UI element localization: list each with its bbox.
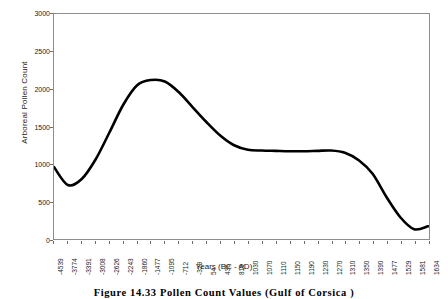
x-axis-tick-mark xyxy=(304,241,305,244)
x-axis-tick-mark xyxy=(387,241,388,244)
y-axis-tick-label: 3000 xyxy=(34,10,50,17)
y-axis-tick-label: 2000 xyxy=(34,85,50,92)
figure-caption: Figure 14.33 Pollen Count Values (Gulf o… xyxy=(0,287,448,298)
x-axis-tick-mark xyxy=(415,241,416,244)
y-axis-tick-label: 500 xyxy=(38,199,50,206)
x-axis-tick-mark xyxy=(262,241,263,244)
x-axis-tick-mark xyxy=(220,241,221,244)
data-line-arboreal-pollen-count xyxy=(54,80,428,230)
pollen-count-figure: Arboreal Pollen Count 050010001500200025… xyxy=(0,0,448,299)
line-series-svg xyxy=(54,14,429,239)
x-axis-title: Years (BC - AD) xyxy=(0,262,448,271)
x-axis-tick-mark xyxy=(53,241,54,244)
y-axis-tick-label: 2500 xyxy=(34,47,50,54)
x-axis-tick-mark xyxy=(429,241,430,244)
x-axis-tick-mark xyxy=(178,241,179,244)
x-axis-tick-mark xyxy=(248,241,249,244)
x-axis-tick-mark xyxy=(276,241,277,244)
x-axis-tick-mark xyxy=(95,241,96,244)
x-axis-tick-mark xyxy=(290,241,291,244)
plot-area xyxy=(53,13,430,240)
x-axis-tick-mark xyxy=(164,241,165,244)
x-axis-tick-mark xyxy=(206,241,207,244)
x-axis-tick-mark xyxy=(401,241,402,244)
x-axis-tick-mark xyxy=(332,241,333,244)
x-axis-tick-mark xyxy=(192,241,193,244)
x-axis-tick-mark xyxy=(109,241,110,244)
y-axis-title: Arboreal Pollen Count xyxy=(20,33,29,173)
x-axis-tick-mark xyxy=(150,241,151,244)
x-axis-tick-mark xyxy=(318,241,319,244)
y-axis-tick-label: 1500 xyxy=(34,123,50,130)
x-axis-tick-mark xyxy=(137,241,138,244)
y-axis-tick-label: 1000 xyxy=(34,161,50,168)
x-axis-tick-mark xyxy=(67,241,68,244)
x-axis-tick-mark xyxy=(345,241,346,244)
x-axis-tick-mark xyxy=(359,241,360,244)
x-axis-tick-mark xyxy=(234,241,235,244)
x-axis-tick-mark xyxy=(373,241,374,244)
x-axis-tick-mark xyxy=(123,241,124,244)
x-axis-tick-mark xyxy=(81,241,82,244)
